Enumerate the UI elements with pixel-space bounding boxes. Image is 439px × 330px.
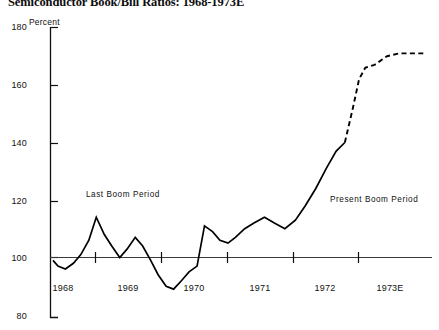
plot-area (0, 0, 439, 330)
series-line-estimated (345, 53, 424, 142)
chart-container: Semiconductor Book/Bill Ratios: 1968-197… (0, 0, 439, 330)
y-axis-spine (51, 27, 59, 318)
series-line-actual (53, 143, 345, 290)
